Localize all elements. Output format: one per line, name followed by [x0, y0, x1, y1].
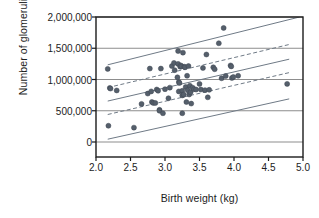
data-point	[147, 66, 152, 71]
data-point	[189, 101, 194, 106]
prediction-upper	[108, 17, 300, 65]
data-point	[204, 52, 209, 57]
data-point	[216, 41, 221, 46]
data-point	[160, 111, 165, 116]
data-point	[153, 100, 158, 105]
data-point	[181, 92, 186, 97]
data-point	[167, 85, 172, 90]
confidence-lower	[108, 73, 289, 115]
data-point	[180, 50, 185, 55]
plot-frame	[96, 17, 303, 157]
data-point	[177, 80, 182, 85]
scatter-points	[105, 25, 289, 130]
data-point	[223, 74, 228, 79]
data-point	[106, 123, 111, 128]
data-point	[205, 95, 210, 100]
data-point	[175, 75, 180, 80]
data-point	[139, 101, 144, 106]
data-point	[200, 65, 205, 70]
data-point	[166, 96, 171, 101]
data-point	[158, 66, 163, 71]
data-point	[212, 67, 217, 72]
confidence-upper	[108, 45, 289, 88]
data-point	[114, 88, 119, 93]
data-point	[207, 87, 212, 92]
data-point	[176, 49, 181, 54]
data-point	[186, 64, 191, 69]
data-point	[236, 73, 241, 78]
data-point	[172, 68, 177, 73]
data-point	[221, 25, 226, 30]
data-point	[197, 81, 202, 86]
prediction-lower	[108, 99, 289, 139]
data-point	[180, 111, 185, 116]
data-point	[184, 100, 189, 105]
data-point	[149, 89, 154, 94]
data-point	[131, 125, 136, 130]
data-point	[105, 66, 110, 71]
regression-line	[108, 59, 289, 101]
plot-area	[0, 0, 319, 218]
data-point	[194, 87, 199, 92]
data-point	[156, 88, 161, 93]
data-point	[285, 81, 290, 86]
data-point	[231, 75, 236, 80]
data-point	[229, 64, 234, 69]
data-point	[163, 87, 168, 92]
data-point	[185, 73, 190, 78]
data-point	[108, 86, 113, 91]
glomeruli-birthweight-scatter-figure: Number of glomeruli Birth weight (kg) 05…	[0, 0, 319, 218]
